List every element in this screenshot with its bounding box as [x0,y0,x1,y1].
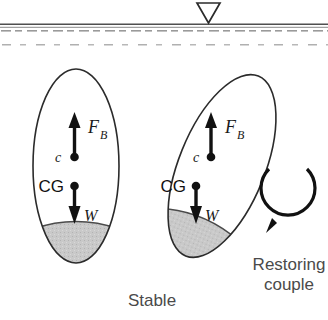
caption-stable: Stable [128,291,176,310]
water-hatch-tail-right [210,42,328,48]
tilted-buoyancy-force-label: F [224,117,237,137]
upright-center-of-gravity-dot [70,182,79,191]
upright-buoyancy-force-label: F [87,117,100,137]
water-level-triangle-icon [197,3,220,23]
water-hatch-tail-left [0,44,150,50]
upright-ballast [33,222,119,276]
tilted-buoyancy-arrow [205,112,217,156]
diagram-canvas: c F B CG W [0,0,328,320]
upright-center-of-buoyancy-label: c [55,150,62,165]
upright-center-of-gravity-label: CG [39,177,65,196]
buoyancy-stability-diagram: c F B CG W [0,0,328,320]
tilted-center-of-buoyancy-dot [207,153,216,162]
circular-arrow-icon [261,169,315,233]
tilted-weight-label: W [205,207,220,224]
tilted-buoyancy-force-subscript: B [237,128,245,142]
water-region [0,24,328,50]
tilted-center-of-buoyancy-label: c [193,150,200,165]
upright-vessel: c F B CG W [33,69,119,275]
upright-buoyancy-arrow [69,112,81,156]
tilted-center-of-gravity-dot [192,182,201,191]
tilted-center-of-gravity-label: CG [161,177,187,196]
upright-weight-label: W [84,207,99,224]
upright-buoyancy-force-subscript: B [100,128,108,142]
upright-weight-arrow [69,190,81,224]
tilted-ballast [141,201,241,283]
caption-restoring-line2: couple [264,275,314,294]
tilted-vessel: c F B CG W [141,60,298,283]
caption-restoring-line1: Restoring [253,255,326,274]
upright-center-of-buoyancy-dot [70,153,79,162]
